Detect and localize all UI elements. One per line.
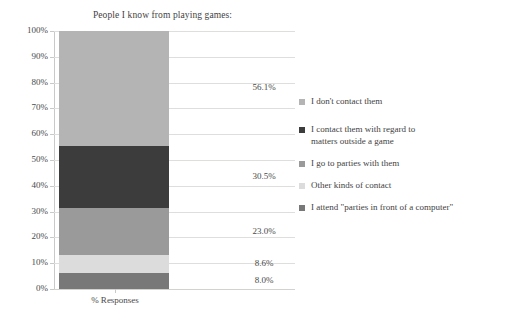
legend-swatch-icon [299,205,305,211]
gridline-0% [54,289,295,290]
bar-segment[interactable] [59,255,169,273]
stacked-bar[interactable] [59,31,169,289]
y-axis-tick [50,186,54,187]
y-tick-label-80%: 80% [32,77,49,87]
legend-swatch-icon [299,127,305,133]
legend-swatch-icon [299,183,305,189]
y-axis-tick [50,83,54,84]
y-axis-tick [50,134,54,135]
bar-segment[interactable] [59,31,169,146]
y-axis-tick [50,57,54,58]
data-label: 8.0% [234,275,294,285]
legend-label: I contact them with regard to matters ou… [311,124,415,147]
y-tick-label-10%: 10% [32,257,49,267]
bar-segment[interactable] [59,208,169,255]
data-label: 56.1% [234,82,294,92]
bar-segment[interactable] [59,273,169,289]
y-axis-tick [50,212,54,213]
x-axis-tick [115,289,116,293]
plot-area [54,31,295,289]
x-axis-label: % Responses [54,295,176,305]
legend-swatch-icon [299,99,305,105]
chart-figure: People I know from playing games: 0%10%2… [0,0,513,324]
y-axis-tick [50,263,54,264]
legend-label: Other kinds of contact [311,180,391,192]
legend-label: I attend "parties in front of a computer… [311,202,453,214]
y-tick-label-0%: 0% [36,283,48,293]
y-tick-label-60%: 60% [32,128,49,138]
legend-label: I go to parties with them [311,158,399,170]
y-tick-label-40%: 40% [32,180,49,190]
legend-item[interactable]: I attend "parties in front of a computer… [299,202,453,214]
bar-segment[interactable] [59,146,169,208]
y-tick-label-20%: 20% [32,231,49,241]
y-axis-tick [50,237,54,238]
y-axis-labels: 0%10%20%30%40%50%60%70%80%90%100% [0,31,48,290]
data-label: 8.6% [234,258,294,268]
y-tick-label-90%: 90% [32,51,49,61]
y-axis-tick [50,160,54,161]
legend-item[interactable]: I contact them with regard to matters ou… [299,124,415,147]
data-label: 23.0% [234,226,294,236]
y-axis-tick [50,31,54,32]
legend-item[interactable]: Other kinds of contact [299,180,391,192]
y-tick-label-70%: 70% [32,102,49,112]
legend-swatch-icon [299,161,305,167]
legend-label: I don't contact them [311,96,382,108]
y-axis-tick [50,289,54,290]
chart-title: People I know from playing games: [30,10,295,20]
legend-item[interactable]: I go to parties with them [299,158,399,170]
y-tick-label-30%: 30% [32,206,49,216]
y-axis-tick [50,108,54,109]
y-tick-label-100%: 100% [27,25,48,35]
legend-item[interactable]: I don't contact them [299,96,382,108]
data-label: 30.5% [234,171,294,181]
y-tick-label-50%: 50% [32,154,49,164]
